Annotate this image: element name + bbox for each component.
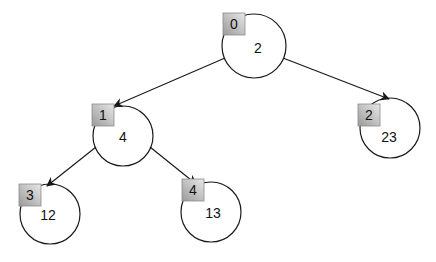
tree-node-4: 4 13 <box>181 179 241 242</box>
tree-node-3: 3 12 <box>19 184 80 244</box>
edge-0-2 <box>283 58 389 99</box>
tree-node-1: 1 4 <box>92 104 153 166</box>
node-value: 12 <box>40 207 56 223</box>
node-index: 3 <box>26 187 34 203</box>
tree-diagram: 0 2 1 4 2 23 3 12 4 13 <box>0 0 436 262</box>
node-index: 2 <box>365 107 373 123</box>
edge-1-3 <box>47 147 96 186</box>
node-index: 0 <box>230 16 238 32</box>
node-value: 13 <box>205 205 221 221</box>
edge-0-1 <box>114 58 225 106</box>
node-value: 23 <box>381 129 397 145</box>
node-index: 4 <box>189 182 197 198</box>
node-value: 2 <box>254 40 262 56</box>
node-value: 4 <box>119 129 127 145</box>
edge-1-4 <box>150 147 196 184</box>
tree-node-0: 0 2 <box>222 13 286 78</box>
node-index: 1 <box>99 107 107 123</box>
tree-node-2: 2 23 <box>358 98 420 158</box>
